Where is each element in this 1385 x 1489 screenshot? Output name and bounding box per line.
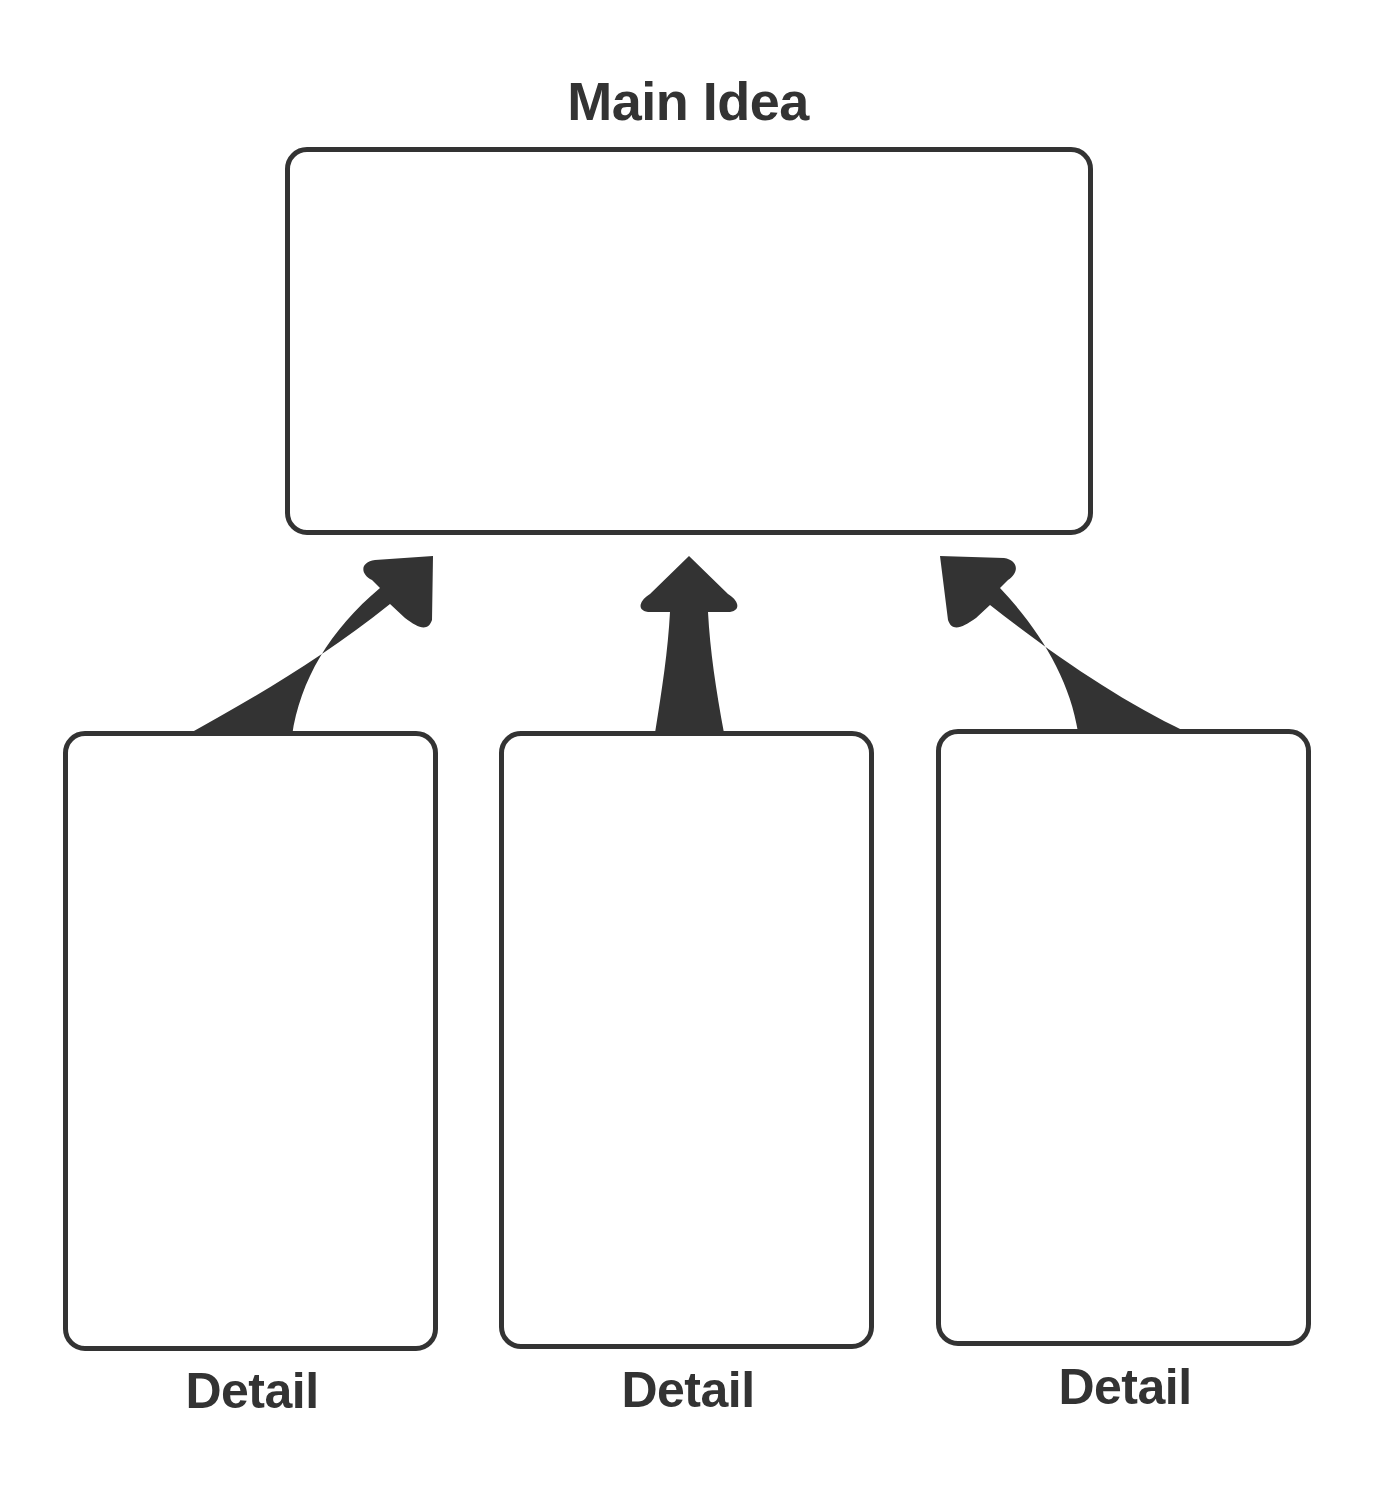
arrow-left-icon <box>185 556 433 736</box>
detail-label-3: Detail <box>935 1357 1315 1417</box>
arrow-right-icon <box>940 556 1186 732</box>
arrow-up-icon <box>641 556 738 733</box>
detail-box-3[interactable] <box>936 729 1311 1346</box>
detail-label-2: Detail <box>498 1360 878 1420</box>
detail-box-2[interactable] <box>499 731 874 1349</box>
detail-label-1: Detail <box>62 1361 442 1421</box>
detail-box-1[interactable] <box>63 731 438 1351</box>
